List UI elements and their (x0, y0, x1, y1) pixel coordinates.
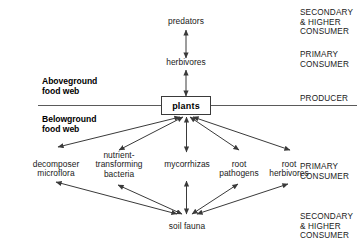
trophic-label-primary-consumer-bottom: PRIMARY CONSUMER (300, 162, 349, 181)
plants-box: plants (161, 96, 211, 115)
aboveground-food-web-line2: food web (42, 86, 79, 96)
trophic-label-secondary-higher-consumer-top: SECONDARY & HIGHER CONSUMER (300, 8, 353, 37)
aboveground-food-web-label: Aboveground food web (42, 76, 97, 96)
sec-bot-line1: SECONDARY (300, 212, 353, 221)
sec-top-line3: CONSUMER (300, 27, 349, 36)
belowground-food-web-line1: Belowground (42, 114, 96, 124)
trophic-label-secondary-higher-consumer-bottom: SECONDARY & HIGHER CONSUMER (300, 212, 353, 241)
aboveground-food-web-line1: Aboveground (42, 76, 97, 86)
sec-bot-line3: CONSUMER (300, 231, 349, 240)
node-herbivores: herbivores (150, 58, 222, 67)
arrow-plants-root-herbivores (193, 117, 290, 150)
pri-top-line2: CONSUMER (300, 60, 349, 69)
arrow-plants-nutrient-transforming-bacteria (119, 117, 183, 150)
trophic-label-producer: PRODUCER (300, 94, 348, 104)
node-soil-fauna: soil fauna (150, 222, 224, 231)
belowground-food-web-line2: food web (42, 124, 79, 134)
nutrient-transforming-bacteria-line3: bacteria (104, 169, 134, 179)
sec-bot-line2: & HIGHER (300, 222, 341, 231)
arrow-nutrient-transforming-bacteria-soil-fauna (118, 185, 182, 214)
food-web-diagram: predators herbivores plants Aboveground … (0, 0, 363, 252)
pri-top-line1: PRIMARY (300, 50, 338, 59)
sec-top-line2: & HIGHER (300, 18, 341, 27)
sec-top-line1: SECONDARY (300, 8, 353, 17)
arrow-root-herbivores-soil-fauna (197, 184, 288, 214)
trophic-label-primary-consumer-top: PRIMARY CONSUMER (300, 50, 349, 69)
arrow-root-pathogens-soil-fauna (192, 184, 238, 214)
arrow-decomposer-microflora-soil-fauna (56, 182, 177, 214)
decomposer-microflora-line2: microflora (37, 168, 74, 178)
pri-bot-line1: PRIMARY (300, 162, 338, 171)
belowground-food-web-label: Belowground food web (42, 114, 96, 134)
root-pathogens-line2: pathogens (219, 168, 259, 178)
arrow-plants-root-pathogens (190, 117, 239, 150)
pri-bot-line2: CONSUMER (300, 172, 349, 181)
node-predators: predators (150, 17, 222, 26)
